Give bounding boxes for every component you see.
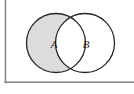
set-a-label: A <box>50 38 58 50</box>
venn-diagram-canvas: A B <box>0 0 134 94</box>
set-b-label: B <box>83 38 90 50</box>
venn-diagram-figure: A B <box>0 0 134 94</box>
